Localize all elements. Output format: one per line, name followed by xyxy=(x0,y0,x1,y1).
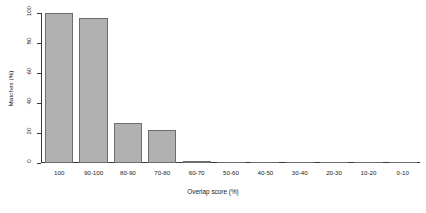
y-axis-tick xyxy=(37,103,41,104)
y-axis-tick-label-text: 40 xyxy=(26,98,32,105)
bar xyxy=(320,162,348,163)
bar xyxy=(79,18,107,164)
y-axis-tick xyxy=(37,13,41,14)
plot-area xyxy=(42,13,420,163)
y-axis-tick-label-text: 0 xyxy=(26,159,32,162)
y-axis-tick xyxy=(37,163,41,164)
y-axis-title-text: Matches (%) xyxy=(8,70,15,106)
bar xyxy=(354,162,382,163)
x-axis-tick-label: 50-60 xyxy=(214,170,248,176)
bar xyxy=(45,13,73,163)
bar xyxy=(389,162,417,163)
bar xyxy=(217,162,245,163)
y-axis-tick xyxy=(37,133,41,134)
y-axis-tick-label: 0 xyxy=(22,158,36,164)
x-axis-tick-label: 90-100 xyxy=(76,170,110,176)
bar xyxy=(183,161,211,163)
y-axis-tick xyxy=(37,73,41,74)
x-axis-tick-label: 30-40 xyxy=(283,170,317,176)
y-axis-tick-label-text: 100 xyxy=(26,6,32,16)
x-axis-tick-label: 60-70 xyxy=(179,170,213,176)
bar xyxy=(286,162,314,163)
bar xyxy=(148,130,176,163)
y-axis-tick-label: 80 xyxy=(22,38,36,44)
x-axis-tick-label: 10-20 xyxy=(351,170,385,176)
y-axis-tick-label: 100 xyxy=(22,8,36,14)
y-axis-tick-label-text: 80 xyxy=(26,38,32,45)
y-axis-title: Matches (%) xyxy=(2,0,20,176)
bar xyxy=(114,123,142,164)
y-axis-tick-label: 40 xyxy=(22,98,36,104)
bar-chart-figure: Matches (%) 020406080100 10090-10080-907… xyxy=(0,0,426,213)
x-axis-tick-label: 20-30 xyxy=(317,170,351,176)
x-axis-tick-label: 80-90 xyxy=(111,170,145,176)
x-axis-tick-label: 0-10 xyxy=(386,170,420,176)
x-axis-tick-label: 40-50 xyxy=(248,170,282,176)
y-axis-tick-label-text: 20 xyxy=(26,128,32,135)
bar xyxy=(251,162,279,163)
y-axis-tick-label-text: 60 xyxy=(26,68,32,75)
y-axis-tick xyxy=(37,43,41,44)
y-axis-tick-label: 60 xyxy=(22,68,36,74)
x-axis-tick-label: 100 xyxy=(42,170,76,176)
x-axis-title: Overlap score (%) xyxy=(0,188,426,195)
y-axis-tick-label: 20 xyxy=(22,128,36,134)
x-axis-tick-label: 70-80 xyxy=(145,170,179,176)
